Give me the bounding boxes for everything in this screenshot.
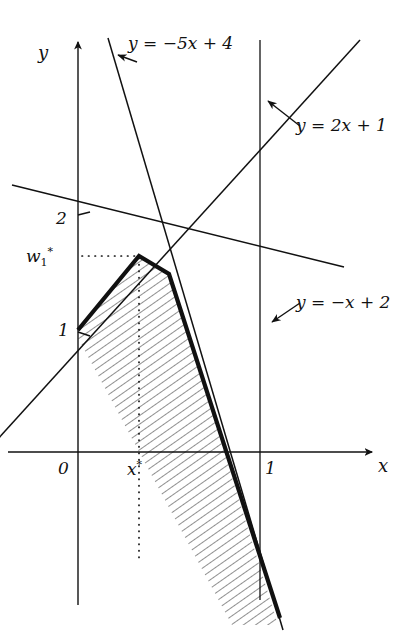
label-line-minus-x-plus-2: y = −x + 2 [296, 292, 390, 312]
w-star-superscript: * [48, 245, 54, 258]
origin-label: 0 [58, 458, 69, 478]
x-star-label: x* [127, 458, 142, 479]
w-star-subscript: 1 [41, 256, 48, 269]
hatched-region [78, 256, 278, 625]
x-tick-1-label: 1 [265, 458, 276, 478]
math-figure [0, 0, 419, 635]
arrow-to-line-minus5x [118, 55, 137, 62]
x-star-superscript: * [137, 458, 143, 471]
y-axis-label: y [38, 42, 48, 63]
y-tick-1-label: 1 [58, 320, 69, 340]
x-axis-label: x [378, 455, 388, 476]
tick-y-2 [78, 212, 90, 215]
label-line-minus-5x-plus-4: y = −5x + 4 [128, 33, 233, 53]
x-star-main: x [127, 459, 137, 479]
w-star-main: w [26, 246, 41, 266]
w1-star-label: w1* [26, 245, 53, 269]
y-tick-2-label: 2 [56, 208, 67, 228]
label-line-2x-plus-1: y = 2x + 1 [296, 115, 387, 135]
